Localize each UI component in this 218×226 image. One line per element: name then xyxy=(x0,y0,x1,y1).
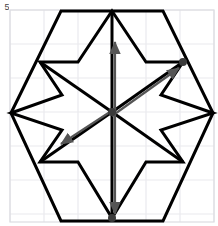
marker-bottom xyxy=(108,214,116,222)
hexagon-star-vector-diagram xyxy=(0,0,218,226)
figure-canvas: 5 xyxy=(0,0,218,226)
marker-top-right xyxy=(179,58,187,66)
marker-center xyxy=(108,108,116,116)
